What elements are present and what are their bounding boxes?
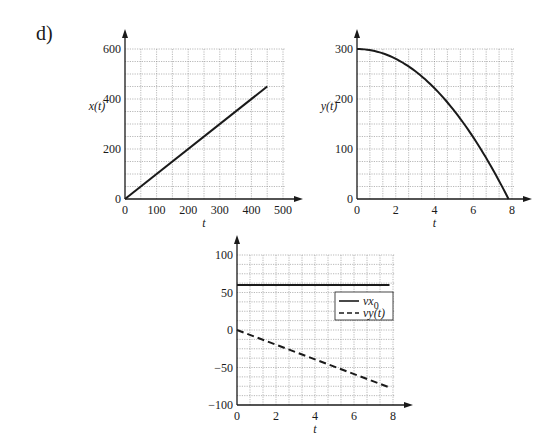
x-axis-label: t: [433, 216, 437, 230]
x-tick-label: 2: [273, 409, 279, 423]
x-tick-label: 6: [470, 203, 476, 217]
y-tick-label: 100: [335, 142, 353, 156]
grid: [357, 49, 514, 199]
x-tick-label: 8: [509, 203, 515, 217]
grid: [237, 255, 395, 405]
x-tick-label: 4: [432, 203, 438, 217]
x-tick-label: 300: [211, 203, 229, 217]
series-xt: [125, 87, 267, 200]
x-tick-label: 4: [312, 409, 318, 423]
x-tick-label: 0: [122, 203, 128, 217]
y-tick-label: 200: [103, 142, 121, 156]
y-tick-label: 400: [103, 92, 121, 106]
x-axis-arrow-icon: [404, 402, 413, 408]
y-axis-arrow-icon: [354, 29, 360, 38]
legend-entry: vy(t): [363, 306, 385, 320]
y-axis-label: x(t): [88, 99, 106, 113]
series-vyt: [237, 330, 389, 387]
y-tick-label: −50: [214, 361, 233, 375]
figure-canvas: 01002003004005000200400600tx(t)024680100…: [0, 0, 551, 437]
chart-velocity: 02468−100−50050100tvx0vy(t): [208, 235, 413, 436]
x-tick-label: 500: [274, 203, 292, 217]
y-tick-label: 200: [335, 92, 353, 106]
x-axis-arrow-icon: [523, 196, 532, 202]
y-tick-label: 600: [103, 42, 121, 56]
x-tick-label: 400: [242, 203, 260, 217]
x-tick-label: 8: [390, 409, 396, 423]
chart-x-of-t: 01002003004005000200400600tx(t): [88, 29, 303, 230]
y-axis-label: y(t): [320, 99, 338, 113]
x-axis-label: t: [202, 216, 206, 230]
x-axis-label: t: [313, 422, 317, 436]
y-tick-label: 100: [215, 248, 233, 262]
x-tick-label: 0: [354, 203, 360, 217]
y-tick-label: −100: [208, 398, 233, 412]
x-tick-label: 2: [393, 203, 399, 217]
x-axis-arrow-icon: [294, 196, 303, 202]
y-tick-label: 50: [221, 286, 233, 300]
y-tick-label: 300: [335, 42, 353, 56]
grid: [125, 49, 285, 199]
x-tick-label: 6: [351, 409, 357, 423]
x-tick-label: 100: [148, 203, 166, 217]
y-tick-label: 0: [115, 192, 121, 206]
chart-y-of-t: 024680100200300ty(t): [320, 29, 532, 230]
y-axis-arrow-icon: [234, 235, 240, 244]
x-tick-label: 200: [179, 203, 197, 217]
y-axis-arrow-icon: [122, 29, 128, 38]
y-tick-label: 0: [227, 323, 233, 337]
x-tick-label: 0: [234, 409, 240, 423]
legend: vx0vy(t): [335, 292, 393, 320]
y-tick-label: 0: [347, 192, 353, 206]
